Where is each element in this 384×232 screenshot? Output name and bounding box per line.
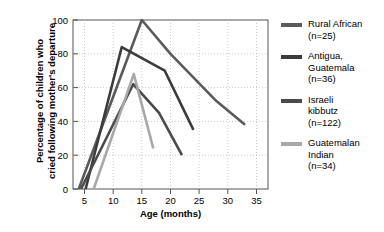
- x-axis-label: Age (months): [73, 208, 268, 219]
- legend-item-rural-african: Rural African (n=25): [281, 18, 384, 41]
- y-tick-label-60: 60: [57, 82, 68, 93]
- x-tick-labels: 5 10 15 20 25 30 35: [82, 195, 262, 205]
- x-tick-label-5: 5: [82, 195, 87, 205]
- y-tick-label-0: 0: [63, 184, 68, 195]
- legend-label-line2: Guatemala: [308, 62, 354, 74]
- x-tick-label-15: 15: [137, 195, 148, 205]
- legend-label-line1: Rural African: [308, 18, 362, 30]
- legend-label-line1: Antigua,: [308, 50, 354, 62]
- chart-legend: Rural African (n=25) Antigua, Guatemala …: [281, 18, 384, 181]
- legend-label-rural-african: Rural African (n=25): [308, 18, 362, 41]
- legend-label-line1: Guatemalan: [308, 137, 360, 149]
- legend-label-line2: Indian: [308, 149, 360, 161]
- legend-label-israeli-kibbutz: Israeli kibbutz (n=122): [308, 94, 341, 129]
- x-tick-marks: [85, 189, 257, 194]
- legend-swatch-rural-african: [281, 23, 302, 27]
- y-tick-labels: 0 20 40 60 80 100: [52, 15, 68, 195]
- legend-label-line2: kibbutz: [308, 105, 341, 117]
- legend-label-line1: Israeli: [308, 94, 341, 106]
- legend-label-guatemalan-indian: Guatemalan Indian (n=34): [308, 137, 360, 172]
- legend-item-guatemalan-indian: Guatemalan Indian (n=34): [281, 137, 384, 172]
- legend-label-line2: (n=25): [308, 30, 362, 42]
- x-tick-label-30: 30: [223, 195, 234, 205]
- x-tick-label-10: 10: [108, 195, 119, 205]
- legend-swatch-israeli-kibbutz: [281, 99, 302, 103]
- x-tick-label-35: 35: [251, 195, 262, 205]
- y-tick-label-40: 40: [57, 116, 68, 127]
- legend-item-israeli-kibbutz: Israeli kibbutz (n=122): [281, 94, 384, 129]
- legend-label-line3: (n=122): [308, 117, 341, 129]
- chart-figure: Percentage of children who cried followi…: [0, 0, 384, 232]
- legend-item-antigua-guatemala: Antigua, Guatemala (n=36): [281, 50, 384, 85]
- x-tick-label-25: 25: [194, 195, 205, 205]
- y-tick-label-20: 20: [57, 150, 68, 161]
- x-tick-label-20: 20: [165, 195, 176, 205]
- plot-area: 0 20 40 60 80 100 5 10 15 20 25 30 35: [0, 0, 290, 205]
- y-tick-label-100: 100: [52, 15, 68, 26]
- legend-swatch-antigua-guatemala: [281, 55, 302, 59]
- legend-label-line3: (n=36): [308, 73, 354, 85]
- y-tick-label-80: 80: [57, 48, 68, 59]
- legend-label-antigua-guatemala: Antigua, Guatemala (n=36): [308, 50, 354, 85]
- legend-label-line3: (n=34): [308, 160, 360, 172]
- legend-swatch-guatemalan-indian: [281, 142, 302, 146]
